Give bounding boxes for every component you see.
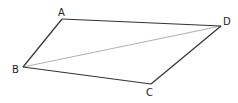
edge-ad	[62, 19, 221, 26]
edge-dc	[151, 26, 221, 84]
parallelogram-diagram: A B C D	[0, 0, 238, 103]
label-a: A	[58, 7, 65, 18]
label-c: C	[146, 87, 153, 98]
label-b: B	[12, 64, 19, 75]
diagonal-bd	[23, 26, 221, 67]
edge-cb	[23, 67, 151, 84]
label-d: D	[223, 16, 231, 27]
